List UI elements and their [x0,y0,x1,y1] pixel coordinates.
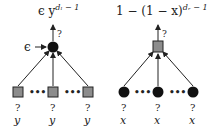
right-ellipsis-2: ••• [169,87,186,97]
left-edge-3 [57,51,88,86]
right-ellipsis-1: ••• [134,87,151,97]
left-child-2-query: ? [50,102,55,113]
left-check-node-2 [48,87,58,97]
left-ellipsis-2: ••• [64,87,81,97]
left-epsilon-input: ϵ [24,40,31,54]
left-root-query: ? [57,29,62,39]
left-diagram: ϵ ydₗ − 1 ? ϵ ••• ••• ? ? ? y y y [13,3,93,127]
left-root-variable-node [48,42,59,53]
right-child-3-label: x [189,114,196,127]
left-ellipsis-1: ••• [29,87,46,97]
left-child-3-label: y [83,114,91,127]
right-child-1-label: x [120,114,127,127]
left-child-2-label: y [48,114,56,127]
left-check-node-3 [83,87,93,97]
right-edge-3 [163,52,193,86]
right-variable-node-2 [153,87,164,98]
right-root-query: ? [162,29,167,39]
right-edge-1 [124,52,153,86]
density-evolution-diagram: ϵ ydₗ − 1 ? ϵ ••• ••• ? ? ? y y y 1 − (1… [0,0,213,135]
right-child-3-query: ? [190,102,195,113]
left-child-3-query: ? [85,102,90,113]
right-root-check-node [153,41,163,52]
left-title: ϵ ydₗ − 1 [38,3,79,18]
right-variable-node-3 [188,87,199,98]
left-child-1-label: y [13,114,21,127]
left-edge-1 [18,51,49,86]
right-child-2-label: x [154,114,161,127]
left-child-1-query: ? [15,102,20,113]
right-title: 1 − (1 − x)dᵣ − 1 [116,3,208,18]
left-check-node-1 [13,87,23,97]
right-child-1-query: ? [121,102,126,113]
right-child-2-query: ? [155,102,160,113]
right-variable-node-1 [119,87,130,98]
right-diagram: 1 − (1 − x)dᵣ − 1 ? ••• ••• ? ? ? x x x [116,3,208,127]
